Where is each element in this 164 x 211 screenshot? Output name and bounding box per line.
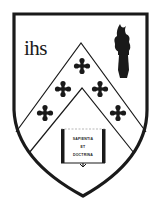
motto-line-2: ET: [62, 145, 104, 149]
ihs-monogram: ihs: [24, 38, 47, 59]
motto-line-1: SAPIENTIA: [62, 137, 104, 141]
shield-icon: [0, 0, 164, 211]
motto-line-3: DOCTRINA: [62, 153, 104, 157]
school-crest: ihs SAPIENTIA ET DOCTRINA: [0, 0, 164, 211]
